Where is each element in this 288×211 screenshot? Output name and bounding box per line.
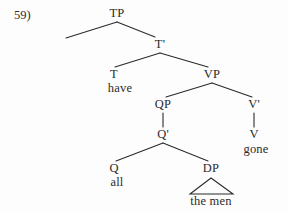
edge-tp-to-tbar	[117, 22, 155, 37]
edge-vp-to-vbar	[212, 83, 252, 97]
terminal-all: all	[110, 176, 123, 189]
edge-qbar-to-dp	[163, 143, 208, 161]
node-v: V	[249, 128, 258, 141]
node-tp: TP	[110, 7, 125, 20]
node-v-bar: V'	[248, 98, 260, 111]
terminal-the-men: the men	[190, 195, 231, 208]
node-t: T	[110, 68, 118, 81]
node-vp: VP	[204, 68, 220, 81]
node-dp: DP	[203, 162, 219, 175]
edge-qbar-to-q	[116, 143, 163, 161]
node-q: Q	[109, 162, 118, 175]
edge-vp-to-qp	[166, 83, 212, 97]
terminal-have: have	[108, 82, 132, 95]
tree-branches	[0, 0, 288, 211]
dp-triangle	[190, 178, 233, 194]
node-q-bar: Q'	[157, 128, 169, 141]
node-qp: QP	[155, 98, 171, 111]
syntax-tree-figure: 59) TP T' T have VP QP V' Q' V gone Q al…	[0, 0, 288, 211]
edge-tp-to-spec	[66, 22, 117, 38]
edge-tbar-to-vp	[160, 53, 208, 67]
terminal-gone: gone	[243, 143, 268, 156]
node-t-bar: T'	[155, 38, 165, 51]
edge-tbar-to-t	[115, 53, 160, 67]
